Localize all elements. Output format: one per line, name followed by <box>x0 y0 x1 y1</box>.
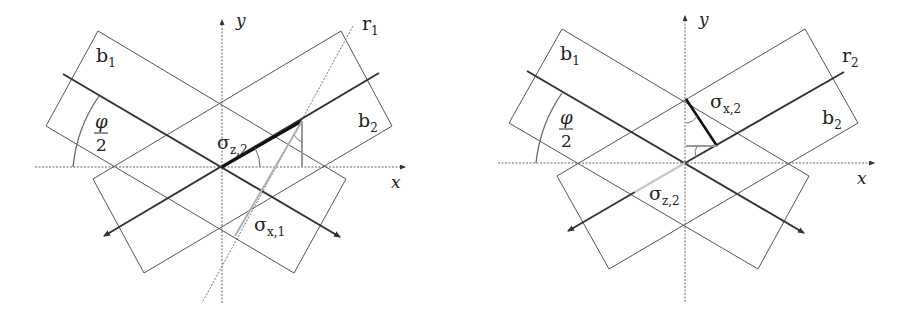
left-r1-label: r1 <box>362 12 379 38</box>
right-beam2-axis-lower <box>568 192 635 231</box>
right-x-label: x <box>857 168 867 188</box>
right-phi-arc <box>536 93 562 163</box>
left-b1-label: b1 <box>96 44 116 70</box>
right-phi-numerator: φ <box>560 107 573 128</box>
left-phi-denominator: 2 <box>96 135 107 155</box>
right-b2-label: b2 <box>822 106 842 132</box>
right-small-arc-top <box>686 116 697 123</box>
right-y-label: y <box>698 9 709 29</box>
left-sigma-z2-label: σz,2 <box>217 131 248 157</box>
diagram-figure: y x b1 b2 r1 φ 2 σz,2 σx,1 y x <box>0 0 909 317</box>
left-x-label: x <box>391 172 401 192</box>
left-small-arc-origin <box>255 148 260 167</box>
left-small-arc-p <box>294 135 302 142</box>
right-b1-label: b1 <box>560 42 580 68</box>
left-panel: y x b1 b2 r1 φ 2 σz,2 σx,1 <box>35 10 405 303</box>
left-phi-numerator: φ <box>95 111 108 132</box>
left-sigma-x1-label: σx,1 <box>254 213 285 239</box>
right-panel: y x b1 b2 r2 φ 2 σx,2 σz,2 <box>498 9 874 302</box>
right-phi-denominator: 2 <box>561 131 572 151</box>
right-beam1-axis <box>527 71 804 233</box>
right-sigma-z2-label: σz,2 <box>649 182 680 208</box>
left-y-label: y <box>235 10 246 30</box>
right-r2-label: r2 <box>842 44 859 70</box>
left-b2-label: b2 <box>358 109 378 135</box>
diagram-canvas: y x b1 b2 r1 φ 2 σz,2 σx,1 y x <box>0 0 909 317</box>
left-beam1-axis <box>63 74 340 237</box>
right-sigma-x2-label: σx,2 <box>710 90 741 116</box>
